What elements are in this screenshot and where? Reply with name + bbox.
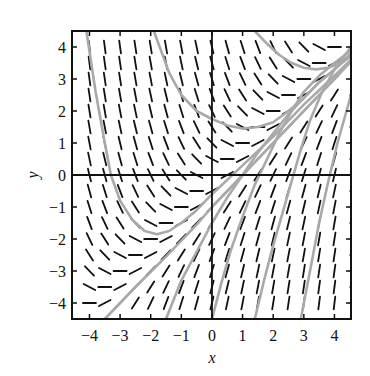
slope-segment [318,201,321,214]
slope-segment [103,185,107,197]
slope-segment [316,121,322,133]
slope-segment [271,201,275,213]
slope-segment [239,186,246,197]
slope-segment [84,284,96,290]
slope-segment [287,217,290,230]
slope-segment [334,297,336,310]
x-tick-label: 3 [300,327,308,344]
slope-segment [285,42,292,53]
slope-segment [226,41,229,54]
slope-segment [302,185,305,198]
slope-segment [164,137,169,149]
slope-segment [150,57,152,70]
slope-segment [333,185,336,198]
slope-segment [180,41,182,54]
slope-segment [334,265,336,278]
slope-segment [303,249,305,262]
slope-segment [176,188,188,194]
slope-segment [147,282,154,293]
slope-segment [303,233,305,246]
slope-segment [87,201,91,213]
slope-segment [241,297,243,310]
slope-segment [119,41,121,54]
slope-segment [130,236,142,242]
y-tick-label: 1 [58,135,66,152]
slope-segment [87,217,92,229]
slope-segment [194,265,199,277]
slope-segment [87,233,93,245]
slope-segment [318,249,320,262]
slope-segment [102,201,107,213]
slope-segment [333,217,335,230]
slope-segment [272,265,274,278]
slope-segment [195,281,199,293]
y-axis-label: y [24,171,42,181]
slope-segment [317,153,321,165]
slope-segment [118,153,121,166]
slope-segment [286,153,292,165]
x-tick-label: −4 [81,327,98,344]
slope-segment [89,89,91,102]
slope-segment [224,217,230,229]
slope-segment [272,297,274,310]
slope-segment [178,154,185,165]
slope-segment [299,42,308,51]
slope-segment [303,265,305,278]
slope-segment [134,73,136,86]
slope-segment [133,153,137,165]
solution-curve-asymptote [105,61,351,319]
slope-segment [119,73,121,86]
slope-segment [104,89,106,102]
slope-segment [114,252,126,258]
slope-segment [117,218,124,229]
slope-segment [239,90,246,101]
slope-segment [104,73,106,86]
slope-segment [313,44,325,50]
slope-segment [99,268,111,274]
solution-curve-3 [255,31,351,69]
slope-segment [270,58,277,69]
slope-segment [132,202,139,213]
slope-segment [195,73,198,86]
slope-segment [256,249,259,262]
slope-segment [253,90,262,99]
slope-segment [318,297,320,310]
slope-segment [164,121,168,133]
slope-segment [288,297,290,310]
slope-segment [145,252,157,258]
slope-segment [134,57,136,70]
slope-segment [164,105,167,118]
y-tick-label: −4 [49,295,66,312]
slope-segment [287,233,290,246]
slope-segment [193,138,200,149]
slope-segment [241,233,245,245]
slope-segment [193,234,200,245]
slope-segment [101,234,108,245]
slope-segment [179,105,183,117]
slope-segment [130,268,142,274]
slope-segment [114,284,126,290]
slope-segment [225,233,230,245]
slope-segment [163,281,169,293]
slope-segment [287,265,289,278]
x-tick-label: −2 [142,327,159,344]
slope-segment [119,57,121,70]
slope-segment [149,105,152,118]
slope-segment [318,265,320,278]
slope-segment [257,281,259,294]
slope-segment [333,201,335,214]
slope-segment [179,121,184,133]
slope-segment [238,106,247,115]
slope-segment [192,154,201,163]
slope-segment [267,92,279,98]
slope-segment [160,236,172,242]
slope-segment [163,153,169,165]
slope-segment [119,105,121,118]
slope-segment [331,90,338,101]
slope-segment [271,185,276,197]
slope-segment [287,201,290,214]
slope-segment [89,73,91,86]
slope-segment [119,137,122,150]
slope-segment [255,57,261,69]
slope-segment [165,73,168,86]
